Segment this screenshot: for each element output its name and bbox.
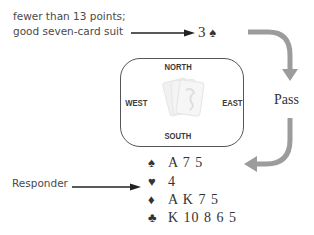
- hand-cards: 4: [168, 174, 176, 190]
- opener-note-line2: good seven-card suit: [13, 24, 126, 39]
- responder-label: Responder: [12, 177, 68, 189]
- hand-row-diamonds: ♦ A K 7 5: [148, 192, 219, 208]
- heart-icon: ♥: [148, 174, 168, 190]
- hand-row-spades: ♠ A 7 5: [148, 155, 203, 171]
- flow-arrow-to-responder: [244, 118, 290, 172]
- club-icon: ♣: [148, 210, 168, 226]
- hand-cards: A K 7 5: [168, 192, 219, 208]
- seat-south: SOUTH: [164, 131, 191, 141]
- hand-row-clubs: ♣ K 10 8 6 5: [148, 210, 237, 226]
- flow-arrow-to-pass: [248, 32, 298, 81]
- hand-cards: K 10 8 6 5: [168, 210, 237, 226]
- seat-east: EAST: [222, 98, 242, 108]
- opener-note: fewer than 13 points; good seven-card su…: [13, 9, 126, 39]
- seat-north: NORTH: [165, 62, 192, 72]
- diamond-icon: ♦: [148, 192, 168, 208]
- hand-row-hearts: ♥ 4: [148, 174, 176, 190]
- opener-note-line1: fewer than 13 points;: [13, 9, 126, 24]
- note-to-bid-arrow: [131, 30, 195, 37]
- spade-icon: ♠: [209, 25, 216, 40]
- spade-icon: ♠: [148, 155, 168, 171]
- east-pass-label: Pass: [274, 92, 299, 108]
- opening-bid: 3 ♠: [198, 24, 216, 41]
- responder-arrow: [72, 184, 141, 191]
- hand-cards: A 7 5: [168, 155, 203, 171]
- seat-west: WEST: [125, 98, 147, 108]
- bid-level: 3: [198, 24, 206, 40]
